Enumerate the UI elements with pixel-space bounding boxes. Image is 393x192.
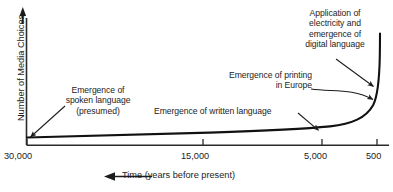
x-axis-title: Time (years before present) bbox=[122, 170, 235, 180]
media-choices-chart: Number of Media Choices 30,000 15,000 5,… bbox=[0, 0, 393, 192]
y-axis-title: Number of Media Choices bbox=[16, 4, 26, 132]
printing-europe-arrow bbox=[311, 89, 373, 100]
x-tick-label-15000: 15,000 bbox=[181, 151, 209, 161]
annotation-written-language: Emergence of written language bbox=[154, 106, 304, 116]
annotation-spoken-language: Emergence of spoken language (presumed) bbox=[46, 85, 150, 116]
x-axis bbox=[27, 139, 390, 145]
annotation-printing-europe: Emergence of printing in Europe bbox=[216, 70, 312, 91]
electricity-digital-arrow bbox=[336, 59, 374, 87]
x-tick-label-30000: 30,000 bbox=[4, 151, 32, 161]
x-tick-label-500: 500 bbox=[366, 151, 381, 161]
annotation-electricity-digital: Application of electricity and emergence… bbox=[283, 8, 387, 50]
x-tick-label-5000: 5,000 bbox=[304, 151, 327, 161]
